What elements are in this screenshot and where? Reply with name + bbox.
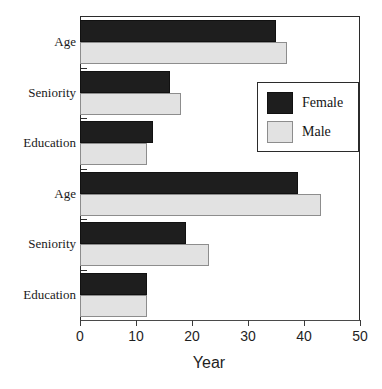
bar-female-seniority-1[interactable] bbox=[80, 71, 170, 93]
y-axis-tick bbox=[80, 169, 87, 170]
x-axis-label-10: 10 bbox=[116, 328, 156, 344]
dark-swatch-icon bbox=[267, 92, 293, 114]
y-axis-label-2: Education bbox=[0, 135, 76, 151]
y-axis-label-1: Seniority bbox=[0, 85, 76, 101]
x-axis-label-50: 50 bbox=[340, 328, 380, 344]
bar-female-age-3[interactable] bbox=[80, 172, 298, 194]
bar-male-seniority-1[interactable] bbox=[80, 93, 181, 115]
bar-group bbox=[80, 270, 360, 321]
x-axis-tick-50 bbox=[360, 320, 361, 326]
y-axis-tick bbox=[80, 68, 87, 69]
bar-male-education-5[interactable] bbox=[80, 295, 147, 317]
x-axis-label-20: 20 bbox=[172, 328, 212, 344]
bar-group bbox=[80, 17, 360, 68]
x-axis-tick-40 bbox=[304, 320, 305, 326]
y-axis-label-4: Seniority bbox=[0, 236, 76, 252]
y-axis-tick bbox=[80, 118, 87, 119]
y-axis-tick bbox=[80, 219, 87, 220]
bar-group bbox=[80, 169, 360, 220]
x-axis-tick-10 bbox=[136, 320, 137, 326]
legend-label-female: Female bbox=[302, 95, 343, 111]
legend-label-male: Male bbox=[302, 124, 331, 140]
legend-entry-female[interactable]: Female bbox=[267, 90, 343, 116]
bar-male-age-0[interactable] bbox=[80, 42, 287, 64]
x-axis-tick-0 bbox=[80, 320, 81, 326]
bars-layer bbox=[80, 17, 360, 320]
legend: Female Male bbox=[257, 82, 359, 152]
light-swatch-icon bbox=[267, 121, 293, 143]
bar-male-age-3[interactable] bbox=[80, 194, 321, 216]
x-axis-title: Year bbox=[0, 354, 382, 372]
bar-chart: AgeSeniorityEducationAgeSeniorityEducati… bbox=[0, 0, 382, 389]
x-axis-label-40: 40 bbox=[284, 328, 324, 344]
y-axis-label-0: Age bbox=[0, 34, 76, 50]
x-axis-line bbox=[80, 320, 361, 321]
bar-group bbox=[80, 219, 360, 270]
bar-female-seniority-4[interactable] bbox=[80, 222, 186, 244]
legend-entry-male[interactable]: Male bbox=[267, 119, 331, 145]
y-axis-label-3: Age bbox=[0, 186, 76, 202]
y-axis-label-5: Education bbox=[0, 287, 76, 303]
bar-male-education-2[interactable] bbox=[80, 143, 147, 165]
bar-female-age-0[interactable] bbox=[80, 20, 276, 42]
bar-female-education-5[interactable] bbox=[80, 273, 147, 295]
x-axis-tick-20 bbox=[192, 320, 193, 326]
x-axis-label-30: 30 bbox=[228, 328, 268, 344]
x-axis-label-0: 0 bbox=[60, 328, 100, 344]
bar-male-seniority-4[interactable] bbox=[80, 244, 209, 266]
bar-female-education-2[interactable] bbox=[80, 121, 153, 143]
y-axis-tick bbox=[80, 270, 87, 271]
x-axis-tick-30 bbox=[248, 320, 249, 326]
